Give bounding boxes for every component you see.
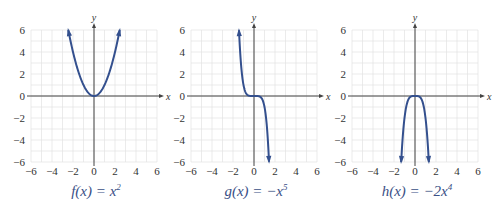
y-tick-label-4: 4 <box>341 46 347 58</box>
y-axis-label: y <box>91 12 97 23</box>
x-tick-label-2: 2 <box>272 165 278 177</box>
caption-text: h(x) = −2x <box>382 183 448 200</box>
x-tick-label-4: 4 <box>133 165 139 177</box>
y-tick-label-2: 2 <box>341 68 347 80</box>
curve-end-arrow-left-icon <box>237 28 242 36</box>
x-tick-label-neg4: −4 <box>206 165 218 177</box>
y-tick-label-0: 0 <box>341 90 347 102</box>
x-tick-label-neg6: −6 <box>346 165 358 177</box>
y-tick-label-0: 0 <box>180 90 186 102</box>
y-axis-label: y <box>251 12 257 23</box>
y-tick-label-2: 2 <box>180 68 186 80</box>
panel-2: xy−6−4−20246−6−4−20246g(x) = −x5 <box>173 12 331 200</box>
x-tick-label-neg6: −6 <box>25 165 37 177</box>
y-tick-label-neg2: −2 <box>173 112 185 124</box>
x-tick-label-neg4: −4 <box>46 165 58 177</box>
curve-end-arrow-left-icon <box>399 156 404 164</box>
caption-exponent: 5 <box>283 182 288 192</box>
x-tick-label-neg2: −2 <box>227 165 239 177</box>
caption-text: f(x) = x <box>71 183 116 200</box>
y-tick-label-6: 6 <box>20 24 26 36</box>
y-tick-label-neg6: −6 <box>334 156 346 168</box>
x-axis-label: x <box>165 91 171 102</box>
function-caption: f(x) = x2 <box>71 182 121 200</box>
y-tick-label-4: 4 <box>20 46 26 58</box>
y-axis-arrow-icon <box>413 23 417 28</box>
x-tick-label-neg6: −6 <box>185 165 197 177</box>
x-tick-label-2: 2 <box>112 165 118 177</box>
panel-3: xy−6−4−20246−6−4−20246h(x) = −2x4 <box>334 12 492 200</box>
x-tick-label-4: 4 <box>454 165 460 177</box>
y-tick-label-neg4: −4 <box>334 134 346 146</box>
y-tick-label-neg2: −2 <box>13 112 25 124</box>
x-tick-label-neg2: −2 <box>67 165 79 177</box>
x-tick-label-0: 0 <box>91 165 97 177</box>
curve-end-arrow-left-icon <box>67 28 72 36</box>
x-tick-label-2: 2 <box>433 165 439 177</box>
y-tick-label-2: 2 <box>20 68 26 80</box>
caption-text: g(x) = −x <box>224 183 283 200</box>
x-tick-label-6: 6 <box>314 165 320 177</box>
x-tick-label-6: 6 <box>475 165 481 177</box>
curve-end-arrow-right-icon <box>426 156 431 164</box>
curve-end-arrow-right-icon <box>266 156 271 164</box>
x-tick-label-neg4: −4 <box>367 165 379 177</box>
x-tick-label-6: 6 <box>154 165 160 177</box>
x-axis-label: x <box>325 91 331 102</box>
x-tick-label-0: 0 <box>412 165 418 177</box>
y-tick-label-6: 6 <box>180 24 186 36</box>
x-axis-arrow-icon <box>319 94 324 98</box>
y-tick-label-6: 6 <box>341 24 347 36</box>
y-tick-label-4: 4 <box>180 46 186 58</box>
x-tick-label-4: 4 <box>293 165 299 177</box>
x-axis-arrow-icon <box>480 94 485 98</box>
caption-exponent: 4 <box>448 182 453 192</box>
y-tick-label-neg4: −4 <box>173 134 185 146</box>
y-axis-arrow-icon <box>252 23 256 28</box>
function-caption: g(x) = −x5 <box>224 182 288 200</box>
function-caption: h(x) = −2x4 <box>382 182 453 200</box>
y-axis-label: y <box>412 12 418 23</box>
curve-end-arrow-right-icon <box>116 28 121 36</box>
x-axis-label: x <box>486 91 492 102</box>
panel-1: xy−6−4−20246−6−4−20246f(x) = x2 <box>13 12 171 200</box>
y-axis-arrow-icon <box>92 23 96 28</box>
y-tick-label-neg4: −4 <box>13 134 25 146</box>
x-tick-label-neg2: −2 <box>388 165 400 177</box>
y-tick-label-neg6: −6 <box>13 156 25 168</box>
y-tick-label-0: 0 <box>20 90 26 102</box>
caption-exponent: 2 <box>116 182 121 192</box>
y-tick-label-neg6: −6 <box>173 156 185 168</box>
x-tick-label-0: 0 <box>251 165 257 177</box>
x-axis-arrow-icon <box>159 94 164 98</box>
y-tick-label-neg2: −2 <box>334 112 346 124</box>
chart-figure: xy−6−4−20246−6−4−20246f(x) = x2xy−6−4−20… <box>0 0 500 214</box>
